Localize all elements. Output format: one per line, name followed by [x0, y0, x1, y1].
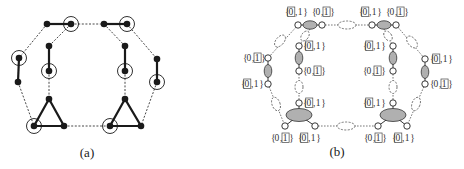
dashed-edge [127, 24, 157, 59]
panel-a-bold-edges [18, 24, 157, 126]
panel-a-dashed-edges [18, 24, 157, 126]
set-element-selected: 0 [245, 79, 250, 89]
set-element-selected: 1 [376, 133, 381, 143]
set-element-selected: 0 [396, 133, 401, 143]
panel-b: {0,1}{0,1}{0,1}{0,1}{0,1}{0,1}{0,1}{0,1}… [241, 7, 453, 159]
open-node [296, 43, 302, 49]
set-label: {0,1} [241, 79, 264, 89]
set-label: {0,1} [303, 66, 326, 76]
set-label: {0,1} [386, 7, 409, 17]
set-element-selected: 1 [283, 133, 288, 143]
set-element-selected: 1 [324, 7, 329, 17]
set-element: 0 [367, 66, 372, 76]
set-label: {0,1} [430, 79, 453, 89]
node [122, 68, 129, 75]
set-element: 1 [405, 133, 410, 143]
set-label: {0,1} [359, 7, 382, 17]
set-element: } [289, 133, 294, 143]
set-element: } [303, 7, 308, 17]
set-label: {0,1} [364, 133, 387, 143]
open-node [404, 123, 410, 129]
node [46, 43, 53, 50]
shaded-ellipse [421, 66, 429, 79]
set-element-selected: 1 [255, 53, 260, 63]
set-element: 1 [372, 7, 377, 17]
open-node [375, 123, 381, 129]
shaded-ellipse [303, 21, 317, 29]
dashed-ellipse [337, 122, 355, 130]
set-element-selected: 0 [367, 98, 372, 108]
open-node [390, 68, 396, 74]
node [122, 43, 129, 50]
set-element: 1 [316, 41, 321, 51]
node [15, 79, 22, 86]
set-element-selected: 0 [302, 133, 307, 143]
open-node [393, 22, 399, 28]
panel-a-nodes [15, 21, 161, 130]
dashed-edge [19, 24, 47, 58]
set-label: {0,1} [303, 41, 326, 51]
set-element: 1 [443, 54, 448, 64]
dashed-ellipse [404, 34, 419, 50]
node [46, 96, 53, 103]
open-node [296, 68, 302, 74]
triangle-left [34, 99, 64, 126]
node [68, 21, 75, 28]
node [101, 21, 108, 28]
set-element: } [316, 133, 321, 143]
bold-edge [18, 58, 19, 82]
dashed-ellipse [272, 33, 287, 49]
set-element: } [381, 41, 386, 51]
set-element: 1 [254, 79, 259, 89]
dashed-edge [49, 24, 71, 46]
set-label: {0,1} [363, 66, 386, 76]
set-element: } [404, 7, 409, 17]
dashed-ellipse [295, 81, 303, 94]
shaded-ellipse [389, 52, 397, 65]
open-node [390, 100, 396, 106]
set-element-selected: 0 [289, 7, 294, 17]
set-label: {0,1} [303, 98, 326, 108]
set-label: {0,1} [363, 41, 386, 51]
set-element: } [321, 41, 326, 51]
set-element: } [321, 98, 326, 108]
node [154, 56, 161, 63]
set-element-selected: 0 [307, 41, 312, 51]
set-label: {0,1} [285, 7, 308, 17]
open-node [312, 123, 318, 129]
node [16, 55, 23, 62]
set-element: 0 [247, 53, 252, 63]
set-element: 0 [307, 66, 312, 76]
set-label: {0,1} [430, 54, 453, 64]
set-label: {0,1} [363, 98, 386, 108]
shaded-ellipse [295, 52, 303, 65]
panel-b-shaded-ellipses [264, 21, 429, 122]
open-node [295, 22, 301, 28]
dashed-ellipse [270, 96, 282, 112]
set-label: {0,1} [392, 133, 415, 143]
set-element: 1 [298, 7, 303, 17]
node [31, 123, 38, 130]
open-node [296, 100, 302, 106]
open-node [422, 56, 428, 62]
open-node [282, 123, 288, 129]
node [122, 96, 129, 103]
open-node [369, 22, 375, 28]
set-element: } [377, 7, 382, 17]
set-element: } [321, 66, 326, 76]
set-element: 0 [275, 133, 280, 143]
dashed-ellipse [389, 81, 397, 94]
open-node [265, 81, 271, 87]
set-element: } [448, 79, 453, 89]
dashed-edge [18, 82, 34, 126]
open-node [390, 43, 396, 49]
set-element: 1 [376, 41, 381, 51]
set-element: 1 [311, 133, 316, 143]
node [138, 123, 145, 130]
set-element: } [382, 133, 387, 143]
dashed-edge [104, 24, 125, 46]
node [44, 21, 51, 28]
shaded-ellipse [377, 21, 391, 29]
caption-b: (b) [329, 144, 344, 159]
set-label: {0,1} [243, 53, 266, 63]
